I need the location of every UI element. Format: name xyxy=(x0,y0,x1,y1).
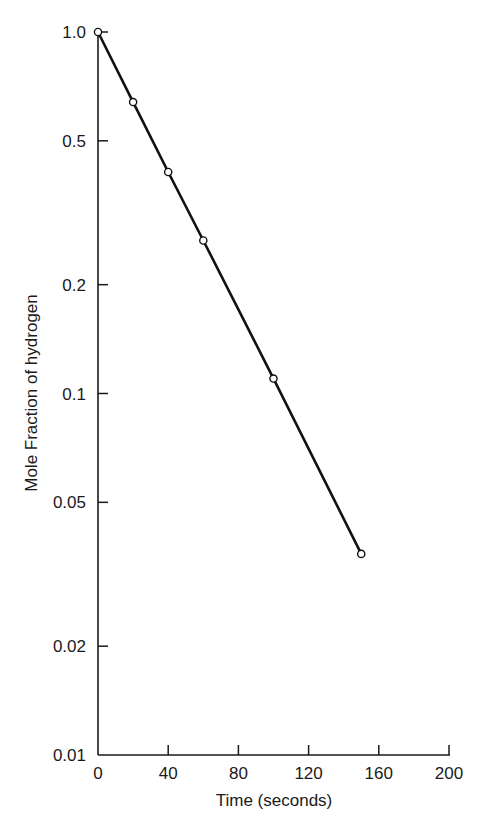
data-point-marker xyxy=(165,168,172,175)
y-tick-label: 0.02 xyxy=(53,637,86,656)
data-point-marker xyxy=(358,550,365,557)
y-tick-label: 1.0 xyxy=(62,23,86,42)
x-tick-label: 160 xyxy=(365,764,393,783)
data-point-marker xyxy=(130,98,137,105)
chart: 04080120160200 1.00.50.20.10.050.020.01 … xyxy=(0,0,493,827)
data-point-marker xyxy=(200,237,207,244)
y-tick-label: 0.05 xyxy=(53,493,86,512)
x-tick-label: 200 xyxy=(435,764,463,783)
y-tick-label: 0.5 xyxy=(62,132,86,151)
x-axis-title: Time (seconds) xyxy=(216,791,333,810)
y-axis-title: Mole Fraction of hydrogen xyxy=(22,294,41,492)
x-tick-label: 120 xyxy=(294,764,322,783)
data-point-marker xyxy=(94,28,101,35)
x-ticks: 04080120160200 xyxy=(93,745,463,783)
x-tick-label: 0 xyxy=(93,764,102,783)
y-tick-label: 0.1 xyxy=(62,385,86,404)
x-tick-label: 40 xyxy=(159,764,178,783)
y-ticks: 1.00.50.20.10.050.020.01 xyxy=(53,23,108,765)
y-tick-label: 0.2 xyxy=(62,276,86,295)
data-point-marker xyxy=(270,375,277,382)
data-line xyxy=(98,32,361,554)
data-series xyxy=(94,28,364,557)
x-tick-label: 80 xyxy=(229,764,248,783)
y-tick-label: 0.01 xyxy=(53,746,86,765)
